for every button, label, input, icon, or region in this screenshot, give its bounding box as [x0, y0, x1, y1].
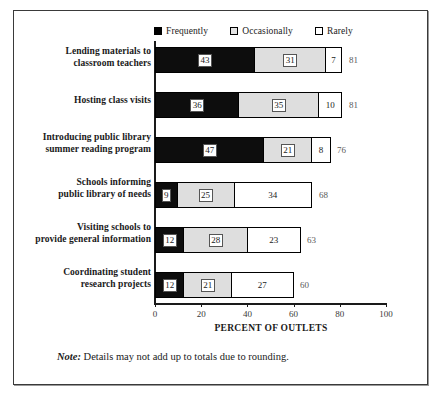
segment-rarely-5: 27: [231, 273, 293, 297]
plot-area: 0 20 40 60 80 100 PERCENT OF OUTLETS 43 …: [155, 41, 387, 303]
chart-legend: Frequently Occasionally Rarely: [154, 23, 404, 39]
segment-value-frequently-2: 47: [203, 144, 217, 157]
chart-figure: Frequently Occasionally Rarely Lending m…: [0, 0, 441, 400]
category-label-2: Introducing public library summer readin…: [33, 131, 151, 155]
bar-row-2: 47 21 8 76: [155, 137, 331, 163]
note-text: Details may not add up to totals due to …: [81, 351, 289, 362]
bar-row-1: 36 35 10 81: [155, 92, 342, 118]
category-label-3-line1: Schools informing: [33, 176, 151, 188]
x-tick-label-100: 100: [379, 309, 393, 319]
segment-frequently-0: 43: [156, 48, 254, 72]
bar-group-2: 47 21 8: [155, 137, 331, 163]
bar-total-2: 76: [337, 137, 346, 163]
segment-frequently-2: 47: [156, 138, 263, 162]
bar-row-4: 12 28 23 63: [155, 227, 301, 253]
bar-row-3: 9 25 34 68: [155, 182, 312, 208]
category-label-4-line2: provide general information: [33, 233, 151, 245]
swatch-black-icon: [154, 27, 162, 35]
note-divider: [28, 337, 441, 338]
segment-frequently-1: 36: [156, 93, 238, 117]
category-label-0: Lending materials to classroom teachers: [33, 45, 151, 69]
segment-value-rarely-2: 8: [317, 145, 325, 156]
segment-occasionally-4: 28: [183, 228, 247, 252]
swatch-white-icon: [315, 27, 323, 35]
swatch-stippled-icon: [230, 27, 238, 35]
category-label-2-line1: Introducing public library: [33, 131, 151, 143]
segment-value-frequently-0: 43: [198, 54, 212, 67]
segment-value-occasionally-1: 35: [272, 99, 286, 112]
segment-occasionally-3: 25: [177, 183, 234, 207]
bar-group-5: 12 21 27: [155, 272, 294, 298]
category-label-3-line2: public library of needs: [33, 188, 151, 200]
segment-value-frequently-5: 12: [163, 279, 177, 292]
segment-value-rarely-3: 34: [267, 190, 279, 201]
category-label-5: Coordinating student research projects: [33, 266, 151, 290]
category-label-column: Lending materials to classroom teachers …: [29, 41, 151, 303]
category-label-1-line1: Hosting class visits: [33, 94, 151, 106]
category-label-5-line2: research projects: [33, 278, 151, 290]
segment-value-occasionally-5: 21: [201, 279, 215, 292]
x-tick-0: [155, 303, 156, 307]
segment-value-occasionally-4: 28: [209, 234, 223, 247]
category-label-0-line1: Lending materials to: [33, 45, 151, 57]
x-tick-20: [201, 303, 202, 307]
segment-value-frequently-3: 9: [162, 189, 172, 202]
bar-group-3: 9 25 34: [155, 182, 312, 208]
legend-item-frequently: Frequently: [154, 26, 208, 36]
segment-occasionally-0: 31: [254, 48, 325, 72]
segment-rarely-2: 8: [311, 138, 329, 162]
x-tick-40: [247, 303, 248, 307]
chart-frame: Frequently Occasionally Rarely Lending m…: [13, 10, 428, 385]
x-tick-80: [340, 303, 341, 307]
segment-frequently-4: 12: [156, 228, 183, 252]
bar-total-0: 81: [349, 47, 358, 73]
segment-occasionally-5: 21: [183, 273, 231, 297]
segment-value-frequently-1: 36: [190, 99, 204, 112]
legend-label-occasionally: Occasionally: [242, 26, 293, 36]
x-tick-label-20: 20: [197, 309, 206, 319]
segment-value-rarely-4: 23: [268, 235, 280, 246]
x-tick-60: [294, 303, 295, 307]
x-tick-label-0: 0: [153, 309, 158, 319]
segment-rarely-3: 34: [234, 183, 312, 207]
x-axis-line: [154, 303, 387, 305]
category-label-0-line2: classroom teachers: [33, 57, 151, 69]
x-tick-label-40: 40: [243, 309, 252, 319]
bar-total-5: 60: [300, 272, 309, 298]
x-tick-label-60: 60: [289, 309, 298, 319]
legend-label-rarely: Rarely: [327, 26, 353, 36]
category-label-2-line2: summer reading program: [33, 143, 151, 155]
bar-group-4: 12 28 23: [155, 227, 301, 253]
segment-frequently-3: 9: [156, 183, 177, 207]
segment-occasionally-2: 21: [263, 138, 311, 162]
bar-row-0: 43 31 7 81: [155, 47, 342, 73]
category-label-3: Schools informing public library of need…: [33, 176, 151, 200]
bar-total-1: 81: [349, 92, 358, 118]
x-tick-100: [386, 303, 387, 307]
note-lead: Note:: [57, 351, 81, 362]
category-label-5-line1: Coordinating student: [33, 266, 151, 278]
x-tick-label-80: 80: [335, 309, 344, 319]
chart-note: Note: Details may not add up to totals d…: [57, 351, 289, 362]
bar-group-0: 43 31 7: [155, 47, 342, 73]
x-axis-title: PERCENT OF OUTLETS: [155, 323, 387, 333]
legend-label-frequently: Frequently: [166, 26, 208, 36]
segment-occasionally-1: 35: [238, 93, 318, 117]
category-label-4: Visiting schools to provide general info…: [33, 221, 151, 245]
segment-value-rarely-0: 7: [330, 55, 338, 66]
segment-value-frequently-4: 12: [163, 234, 177, 247]
segment-value-occasionally-2: 21: [281, 144, 295, 157]
segment-value-occasionally-0: 31: [283, 54, 297, 67]
segment-value-occasionally-3: 25: [199, 189, 213, 202]
bar-group-1: 36 35 10: [155, 92, 342, 118]
y-axis-line: [154, 41, 156, 303]
category-label-1: Hosting class visits: [33, 94, 151, 106]
segment-frequently-5: 12: [156, 273, 183, 297]
bar-total-4: 63: [307, 227, 316, 253]
segment-value-rarely-1: 10: [324, 100, 336, 111]
legend-item-rarely: Rarely: [315, 26, 353, 36]
bar-row-5: 12 21 27 60: [155, 272, 294, 298]
segment-rarely-4: 23: [247, 228, 299, 252]
legend-item-occasionally: Occasionally: [230, 26, 293, 36]
category-label-4-line1: Visiting schools to: [33, 221, 151, 233]
